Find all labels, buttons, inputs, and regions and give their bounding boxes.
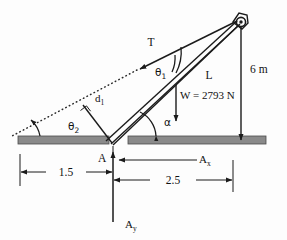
moment-arm-label-sub: 1 (101, 98, 105, 107)
reaction-ay-label-base: A (125, 218, 133, 230)
pin-circle-icon (233, 13, 248, 29)
reaction-ax-label-base: A (199, 153, 207, 165)
boom-length-label: L (205, 69, 212, 81)
dim-label-2-5: 2.5 (166, 174, 181, 186)
point-a-label: A (98, 152, 107, 164)
reaction-ax-label: Ax (199, 153, 211, 168)
cable-line-secondary (106, 21, 237, 141)
weight-label: W = 2793 N (180, 89, 235, 101)
tension-force-arrow (140, 21, 237, 69)
statics-diagram-canvas: T θ1 θ2 L 6 m W = 2793 N α d1 A Ax Ay 1.… (0, 0, 287, 240)
cable-line (111, 25, 239, 144)
dim-label-1-5: 1.5 (59, 166, 74, 178)
theta2-label-sub: 2 (74, 126, 79, 135)
height-label: 6 m (250, 63, 268, 75)
theta1-label-sub: 1 (161, 72, 166, 81)
ground-bar-left (18, 136, 109, 144)
reaction-ax-label-sub: x (207, 159, 211, 168)
ground-surface (18, 136, 266, 144)
ground-bar-right (128, 136, 266, 144)
reaction-ay-label: Ay (125, 218, 137, 233)
moment-arm-label: d1 (95, 92, 105, 107)
tension-label: T (147, 36, 154, 48)
free-body-diagram-svg: T θ1 θ2 L 6 m W = 2793 N α d1 A Ax Ay 1.… (0, 0, 287, 240)
reaction-ay-label-sub: y (133, 224, 137, 233)
theta1-label: θ1 (155, 66, 166, 81)
theta1-angle-arc-inner (172, 55, 175, 72)
alpha-label: α (164, 116, 171, 128)
theta2-label: θ2 (68, 120, 79, 135)
